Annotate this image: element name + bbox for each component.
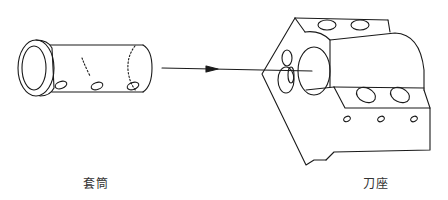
arrowhead-icon — [206, 66, 218, 72]
sleeve-flange-outer — [18, 40, 54, 96]
holder-set-screw-2 — [377, 115, 385, 122]
sleeve-hidden-slot — [82, 58, 90, 76]
diagram-canvas: 套筒 刀座 — [0, 0, 448, 200]
holder-front-hole-1 — [282, 50, 292, 66]
holder-set-screw-1 — [343, 115, 351, 122]
sleeve-label: 套筒 — [83, 174, 108, 191]
holder-top-screw-2 — [351, 20, 369, 30]
sleeve-hole-1 — [54, 80, 68, 91]
sleeve-flange-inner — [22, 46, 46, 90]
holder-top-screw-1 — [318, 20, 336, 30]
holder-cylinder — [305, 32, 424, 90]
holder-front-face — [262, 18, 326, 165]
sleeve-hole-2 — [90, 81, 104, 92]
holder-set-screw-3 — [410, 115, 418, 122]
sleeve-flange-rim — [36, 40, 54, 96]
sleeve-end-cap — [143, 45, 152, 92]
tool-holder-label: 刀座 — [363, 174, 388, 191]
holder-lower-block — [326, 87, 430, 160]
tool-holder-part — [262, 18, 430, 165]
sleeve-part — [18, 40, 152, 96]
